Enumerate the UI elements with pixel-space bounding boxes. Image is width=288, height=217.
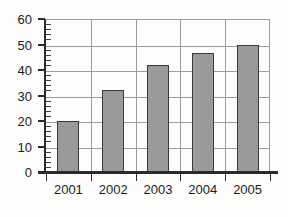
y-major-tick-10 bbox=[38, 146, 45, 148]
y-major-tick-20 bbox=[38, 120, 45, 122]
x-axis: 20012002200320042005 bbox=[46, 183, 270, 209]
bar-2004[interactable] bbox=[192, 53, 214, 172]
y-major-tick-50 bbox=[38, 44, 45, 46]
y-tick-label-40: 40 bbox=[0, 64, 32, 77]
bar-2005[interactable] bbox=[237, 45, 259, 173]
y-tick-label-20: 20 bbox=[0, 115, 32, 128]
x-tick-0 bbox=[46, 174, 47, 181]
x-tick-label-2001: 2001 bbox=[54, 183, 83, 197]
y-tick-label-0: 0 bbox=[0, 166, 32, 179]
x-tick-1 bbox=[91, 174, 92, 181]
y-tick-label-50: 50 bbox=[0, 38, 32, 51]
y-tick-label-30: 30 bbox=[0, 89, 32, 102]
bar-2003[interactable] bbox=[147, 65, 169, 172]
x-tick-4 bbox=[225, 174, 226, 181]
y-tick-label-10: 10 bbox=[0, 140, 32, 153]
bar-chart: 60 50 40 30 20 10 0 20012002200320042005 bbox=[0, 0, 288, 217]
x-tick-2 bbox=[136, 174, 137, 181]
y-major-tick-30 bbox=[38, 95, 45, 97]
x-tick-label-2002: 2002 bbox=[99, 183, 128, 197]
bar-2001[interactable] bbox=[57, 121, 79, 172]
y-axis: 60 50 40 30 20 10 0 bbox=[0, 0, 36, 217]
x-tick-3 bbox=[180, 174, 181, 181]
x-axis-line bbox=[38, 171, 278, 174]
x-tick-label-2003: 2003 bbox=[144, 183, 173, 197]
bars-layer bbox=[46, 19, 270, 172]
y-major-tick-60 bbox=[38, 18, 45, 20]
y-tick-label-60: 60 bbox=[0, 13, 32, 26]
y-major-tick-40 bbox=[38, 69, 45, 71]
x-tick-label-2005: 2005 bbox=[233, 183, 262, 197]
x-tick-label-2004: 2004 bbox=[188, 183, 217, 197]
bar-2002[interactable] bbox=[102, 90, 124, 172]
x-tick-5 bbox=[270, 174, 271, 181]
